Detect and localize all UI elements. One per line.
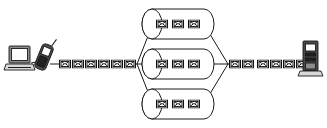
message-icon	[157, 20, 168, 28]
message-icon	[258, 60, 269, 68]
message-icon	[73, 60, 84, 68]
inbound-chain	[60, 60, 136, 68]
server-display	[306, 44, 316, 51]
queue-middle[interactable]	[142, 49, 214, 79]
message-icon	[284, 60, 295, 68]
message-icon	[271, 60, 282, 68]
message-icon	[230, 60, 241, 68]
laptop-screen	[12, 49, 28, 61]
server-tower-icon[interactable]	[298, 41, 323, 76]
message-icon	[173, 60, 184, 68]
message-icon	[157, 60, 168, 68]
server-drive-bay-top	[306, 53, 316, 56]
message-icon	[189, 20, 200, 28]
message-icon	[243, 60, 254, 68]
message-icon	[173, 100, 184, 108]
message-icon	[99, 60, 110, 68]
message-icon	[189, 100, 200, 108]
mobile-phone-icon[interactable]	[34, 35, 58, 71]
message-icon	[60, 60, 71, 68]
laptop-icon[interactable]	[4, 46, 35, 70]
diagram-canvas	[0, 0, 327, 128]
server-drive-bay-bottom	[306, 58, 316, 61]
message-icon	[173, 20, 184, 28]
server-base	[298, 71, 323, 76]
message-icon	[157, 100, 168, 108]
server-vent	[306, 63, 316, 69]
queue-top[interactable]	[142, 9, 214, 39]
queue-bottom[interactable]	[142, 89, 214, 119]
message-icon	[112, 60, 123, 68]
message-icon	[125, 60, 136, 68]
message-icon	[86, 60, 97, 68]
outbound-chain	[230, 60, 308, 68]
phone-antenna	[52, 39, 57, 47]
message-icon	[189, 60, 200, 68]
network-diagram	[0, 0, 327, 128]
